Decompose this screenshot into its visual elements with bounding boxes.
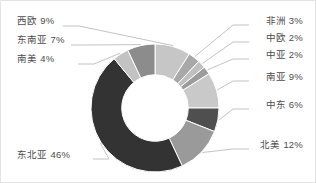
leader-line <box>219 109 249 120</box>
slice-label-zhongya: 中亚 2% <box>266 49 303 60</box>
slice-label-beimei: 北美 12% <box>260 139 303 150</box>
slice-label-dongbeiya: 东北亚 46% <box>17 149 70 160</box>
slice-label-dongnanya: 东南亚 7% <box>17 34 65 45</box>
slice-label-feizhou: 非洲 3% <box>266 15 303 26</box>
leader-line <box>63 26 173 46</box>
slice-label-zhongou: 中欧 2% <box>266 32 303 43</box>
slice-label-xiou: 西欧 9% <box>17 15 54 26</box>
slice-label-zhongdong: 中东 6% <box>266 99 303 110</box>
donut-chart-figure: 西欧 9% 东南亚 7% 南美 4% 东北亚 46% 非洲 3% 中欧 2% 中… <box>0 0 316 183</box>
leader-line <box>202 42 249 64</box>
leader-line <box>202 149 249 153</box>
leader-line <box>208 59 249 70</box>
donut-slices-group <box>91 44 219 172</box>
slice-label-nanya: 南亚 9% <box>266 71 303 82</box>
slice-label-nanmei: 南美 4% <box>17 53 54 64</box>
leader-line <box>217 81 249 90</box>
leader-line <box>195 25 249 57</box>
